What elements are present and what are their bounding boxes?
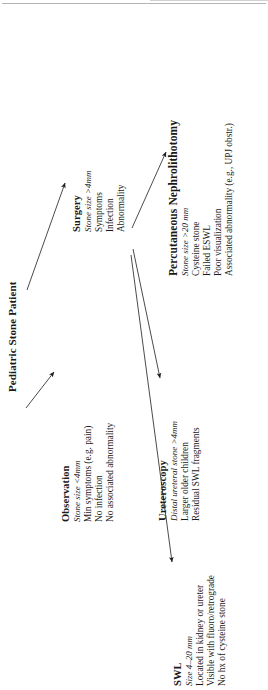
connector-surgery-to-pcnl: [132, 152, 166, 228]
node-percutaneous-nephrolithotomy: Percutaneous Nephrolithotomy Stone size …: [167, 120, 234, 276]
node-criterion: Failed ESWL: [202, 120, 213, 276]
node-title: Percutaneous Nephrolithotomy: [167, 120, 180, 276]
node-subtitle: Stone size <4mm: [72, 423, 83, 522]
node-criterion: Symptoms: [94, 170, 105, 232]
node-criterion: Located in kidney or ureter: [195, 575, 206, 686]
node-title: Ureteroscopy: [157, 421, 169, 521]
node-criterion: Cysteine stone: [191, 120, 202, 276]
node-criterion: Poor visualization: [213, 120, 224, 276]
connector-surgery-to-ureteroscopy: [133, 249, 160, 378]
node-subtitle: Size 4–20 mm: [184, 575, 195, 686]
node-criterion: Abnormality: [116, 170, 127, 232]
node-criterion: No infection: [94, 423, 105, 522]
node-title: Observation: [60, 423, 72, 522]
connector-root-to-surgery: [27, 183, 65, 290]
node-criterion: No associated abnormality: [105, 423, 116, 522]
figure-canvas: Pediatric Stone Patient Observation Ston…: [0, 0, 268, 690]
node-criterion: Larger older children: [180, 421, 191, 521]
node-criterion: Min symptoms (e.g. pain): [83, 423, 94, 522]
node-title: Pediatric Stone Patient: [6, 282, 19, 392]
node-surgery: Surgery Stone size >4mm Symptoms Infecti…: [71, 170, 126, 232]
node-ureteroscopy: Ureteroscopy Distal ureteral stone >4mm …: [157, 421, 202, 521]
node-criterion: Visible with fluoro/retrograde: [206, 575, 217, 686]
node-title: SWL: [172, 575, 184, 686]
node-subtitle: Stone size >4mm: [83, 170, 94, 232]
node-subtitle: Stone size >20 mm: [180, 120, 191, 276]
node-observation: Observation Stone size <4mm Min symptoms…: [60, 423, 115, 522]
node-title: Surgery: [71, 170, 83, 232]
node-criterion: Residual SWL fragments: [191, 421, 202, 521]
node-criterion: Infection: [105, 170, 116, 232]
connector-root-to-observation: [26, 372, 54, 408]
node-criterion: No hx of cysteine stone: [217, 575, 228, 686]
node-subtitle: Distal ureteral stone >4mm: [169, 421, 180, 521]
node-swl: SWL Size 4–20 mm Located in kidney or ur…: [172, 575, 227, 686]
connector-layer: [0, 0, 268, 690]
node-pediatric-stone-patient: Pediatric Stone Patient: [6, 282, 19, 392]
node-criterion: Associated abnormality (e.g., UPJ obstr.…: [224, 120, 235, 276]
